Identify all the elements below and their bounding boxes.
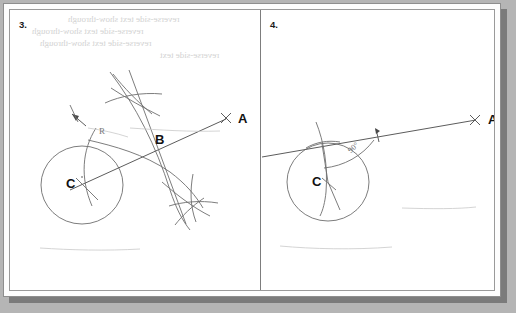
radius-dashline (88, 128, 128, 137)
panel-four-figure (262, 10, 494, 290)
label-point-a: A (238, 111, 247, 126)
panel-three-figure (10, 10, 260, 290)
smudge-stroke-1 (280, 246, 392, 249)
label-point-c: C (66, 176, 75, 191)
tick-c-stroke (322, 178, 336, 190)
label-radius: R (99, 126, 105, 136)
worksheet-inner-frame: reverse-side text show-through reverse-s… (9, 9, 495, 291)
panel-three: 3. (10, 10, 260, 290)
lower-cross-arc-2 (191, 174, 196, 222)
tangent-line-to-a (262, 120, 476, 157)
label-point-b: B (155, 132, 164, 147)
construction-arc-major (110, 72, 190, 230)
smudge-stroke-1 (130, 128, 220, 131)
ray-c-to-a (70, 119, 226, 190)
radius-to-tangency (322, 144, 328, 182)
upper-cross-arc-3 (111, 88, 160, 116)
panel-divider (260, 10, 261, 290)
radius-extension (328, 182, 340, 210)
label-point-c: C (312, 174, 321, 189)
tick-c-stroke (76, 178, 98, 200)
label-point-a: A (488, 112, 494, 127)
construction-arc-through-tangency (316, 122, 327, 216)
angle-arrow-head (375, 128, 380, 134)
worksheet-sheet: reverse-side text show-through reverse-s… (3, 3, 501, 297)
construction-line-vertical (129, 70, 186, 224)
panel-four: 4. (262, 10, 494, 290)
smudge-stroke-2 (402, 207, 476, 209)
smudge-stroke-2 (40, 248, 140, 250)
radius-arc-left (84, 128, 96, 206)
radius-leader (70, 105, 78, 122)
